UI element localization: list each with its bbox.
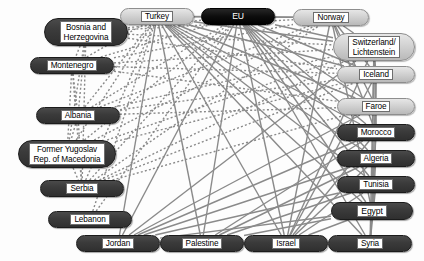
- node-switzerland[interactable]: Switzerland/ Lichtenstein: [333, 33, 415, 61]
- node-label-serbia: Serbia: [66, 183, 97, 195]
- node-israel[interactable]: Israel: [244, 235, 328, 252]
- node-tunisia[interactable]: Tunisia: [337, 176, 415, 193]
- dotted-edge-macedonia-serbia: [73, 168, 78, 180]
- node-label-iceland: Iceland: [359, 69, 393, 81]
- node-palestine[interactable]: Palestine: [160, 235, 244, 252]
- node-label-bosnia: Bosnia and Herzegovina: [60, 21, 113, 42]
- node-label-turkey: Turkey: [141, 11, 173, 23]
- node-jordan[interactable]: Jordan: [76, 235, 160, 252]
- network-diagram-canvas: Bosnia and HerzegovinaMontenegroAlbaniaF…: [0, 0, 424, 261]
- node-eu[interactable]: EU: [201, 8, 275, 25]
- node-label-syria: Syria: [357, 238, 383, 250]
- node-label-norway: Norway: [313, 12, 348, 24]
- node-egypt[interactable]: Egypt: [331, 202, 413, 220]
- node-label-palestine: Palestine: [182, 238, 223, 250]
- node-label-faroe: Faroe: [362, 101, 391, 113]
- node-serbia[interactable]: Serbia: [40, 180, 124, 197]
- solid-edge-norway-switzerland: [343, 26, 353, 33]
- node-label-algeria: Algeria: [360, 153, 393, 165]
- node-albania[interactable]: Albania: [36, 107, 120, 124]
- node-label-switzerland: Switzerland/ Lichtenstein: [348, 36, 399, 57]
- node-label-morocco: Morocco: [357, 127, 396, 139]
- node-label-eu: EU: [232, 12, 244, 21]
- node-label-albania: Albania: [61, 110, 96, 122]
- node-turkey[interactable]: Turkey: [120, 8, 194, 25]
- node-faroe[interactable]: Faroe: [337, 98, 415, 115]
- dotted-edge-serbia-faroe: [113, 115, 346, 180]
- dotted-edge-bosnia-montenegro: [76, 46, 81, 57]
- node-label-tunisia: Tunisia: [359, 179, 392, 191]
- node-label-egypt: Egypt: [357, 205, 386, 217]
- node-macedonia[interactable]: Former Yugoslav Rep. of Macedonia: [18, 140, 116, 168]
- node-lebanon[interactable]: Lebanon: [48, 211, 132, 228]
- node-label-montenegro: Montenegro: [47, 60, 98, 72]
- node-label-israel: Israel: [272, 238, 299, 250]
- node-norway[interactable]: Norway: [293, 9, 369, 26]
- node-morocco[interactable]: Morocco: [337, 124, 415, 141]
- solid-edge-algeria-jordan: [144, 167, 350, 235]
- node-syria[interactable]: Syria: [328, 235, 412, 252]
- node-iceland[interactable]: Iceland: [337, 66, 415, 83]
- node-label-jordan: Jordan: [102, 238, 134, 250]
- node-bosnia[interactable]: Bosnia and Herzegovina: [44, 18, 128, 46]
- node-label-macedonia: Former Yugoslav Rep. of Macedonia: [29, 143, 104, 164]
- node-algeria[interactable]: Algeria: [337, 150, 415, 167]
- node-montenegro[interactable]: Montenegro: [30, 57, 114, 74]
- node-label-lebanon: Lebanon: [70, 214, 109, 226]
- solid-edge-algeria-palestine: [219, 167, 358, 235]
